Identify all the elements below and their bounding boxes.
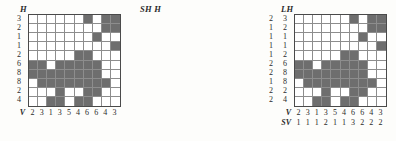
grid-cell-filled[interactable] [29, 70, 38, 79]
grid-cell-filled[interactable] [29, 61, 38, 70]
grid-cell-empty[interactable] [29, 15, 38, 24]
grid-cell-filled[interactable] [75, 79, 84, 88]
grid-cell-filled[interactable] [102, 79, 111, 88]
grid-cell-empty[interactable] [38, 97, 47, 106]
grid-cell-empty[interactable] [29, 97, 38, 106]
grid-cell-empty[interactable] [38, 15, 47, 24]
grid-cell-empty[interactable] [56, 33, 65, 42]
grid-cell-empty[interactable] [47, 88, 56, 97]
grid-cell-empty[interactable] [93, 42, 102, 51]
grid-cell-empty[interactable] [102, 70, 111, 79]
grid-cell-filled[interactable] [38, 70, 47, 79]
grid-cell-filled[interactable] [93, 33, 102, 42]
grid-cell-empty[interactable] [93, 97, 102, 106]
grid-cell-empty[interactable] [111, 33, 120, 42]
grid-cell-filled[interactable] [93, 79, 102, 88]
grid-cell-empty[interactable] [56, 15, 65, 24]
grid-cell-empty[interactable] [75, 15, 84, 24]
grid-cell-filled[interactable] [38, 79, 47, 88]
grid-cell-empty[interactable] [84, 42, 93, 51]
grid-cell-filled[interactable] [93, 70, 102, 79]
grid-cell-empty[interactable] [29, 42, 38, 51]
grid-cell-filled[interactable] [47, 79, 56, 88]
grid-cell-empty[interactable] [75, 24, 84, 33]
grid-cell-empty[interactable] [29, 79, 38, 88]
grid-cell-empty[interactable] [29, 24, 38, 33]
grid-cell-filled[interactable] [75, 61, 84, 70]
grid-cell-filled[interactable] [65, 79, 74, 88]
grid-cell-empty[interactable] [56, 51, 65, 60]
grid-cell-filled[interactable] [84, 88, 93, 97]
grid-cell-filled[interactable] [38, 61, 47, 70]
grid-cell-empty[interactable] [93, 24, 102, 33]
grid-cell-empty[interactable] [38, 88, 47, 97]
grid-cell-empty[interactable] [47, 51, 56, 60]
grid-cell-filled[interactable] [47, 70, 56, 79]
grid-cell-filled[interactable] [111, 42, 120, 51]
grid-cell-empty[interactable] [75, 88, 84, 97]
grid-cell-filled[interactable] [56, 70, 65, 79]
grid-cell-filled[interactable] [56, 61, 65, 70]
grid-cell-filled[interactable] [84, 15, 93, 24]
grid-cell-empty[interactable] [111, 51, 120, 60]
grid-cell-empty[interactable] [111, 97, 120, 106]
grid-cell-empty[interactable] [47, 42, 56, 51]
grid-cell-empty[interactable] [75, 42, 84, 51]
grid-cell-empty[interactable] [38, 42, 47, 51]
grid-cell-empty[interactable] [29, 33, 38, 42]
grid-cell-empty[interactable] [65, 33, 74, 42]
grid-cell-empty[interactable] [29, 88, 38, 97]
grid-cell-empty[interactable] [65, 88, 74, 97]
grid-cell-empty[interactable] [93, 15, 102, 24]
grid-cell-empty[interactable] [56, 24, 65, 33]
grid-cell-filled[interactable] [56, 88, 65, 97]
grid-cell-empty[interactable] [102, 61, 111, 70]
grid-cell-empty[interactable] [111, 70, 120, 79]
grid-cell-empty[interactable] [38, 33, 47, 42]
grid-cell-empty[interactable] [65, 42, 74, 51]
grid-cell-empty[interactable] [84, 24, 93, 33]
grid-cell-filled[interactable] [102, 24, 111, 33]
grid-cell-filled[interactable] [65, 61, 74, 70]
grid-cell-empty[interactable] [47, 15, 56, 24]
grid-cell-filled[interactable] [111, 24, 120, 33]
grid-cell-filled[interactable] [56, 97, 65, 106]
grid-cell-empty[interactable] [47, 61, 56, 70]
grid-cell-empty[interactable] [65, 15, 74, 24]
grid-cell-empty[interactable] [65, 51, 74, 60]
grid-cell-filled[interactable] [84, 70, 93, 79]
grid-cell-filled[interactable] [93, 61, 102, 70]
grid-cell-filled[interactable] [111, 15, 120, 24]
grid-cell-empty[interactable] [47, 33, 56, 42]
grid-cell-filled[interactable] [84, 51, 93, 60]
grid-cell-empty[interactable] [111, 79, 120, 88]
grid-cell-empty[interactable] [102, 88, 111, 97]
grid-cell-filled[interactable] [102, 15, 111, 24]
grid-cell-filled[interactable] [75, 51, 84, 60]
grid-cell-filled[interactable] [75, 97, 84, 106]
grid-cell-filled[interactable] [84, 79, 93, 88]
grid-cell-empty[interactable] [56, 42, 65, 51]
grid-cell-empty[interactable] [111, 88, 120, 97]
grid-cell-filled[interactable] [56, 79, 65, 88]
grid-cell-empty[interactable] [102, 97, 111, 106]
grid-cell-filled[interactable] [75, 70, 84, 79]
grid-cell-empty[interactable] [65, 97, 74, 106]
grid-cell-filled[interactable] [65, 70, 74, 79]
grid-cell-filled[interactable] [84, 97, 93, 106]
grid-cell-empty[interactable] [102, 51, 111, 60]
grid-cell-empty[interactable] [93, 51, 102, 60]
grid-cell-filled[interactable] [93, 88, 102, 97]
grid-cell-empty[interactable] [84, 33, 93, 42]
grid-cell-empty[interactable] [47, 24, 56, 33]
grid-cell-empty[interactable] [111, 61, 120, 70]
grid-cell-empty[interactable] [75, 33, 84, 42]
grid-cell-empty[interactable] [102, 42, 111, 51]
grid-cell-empty[interactable] [29, 51, 38, 60]
grid-cell-filled[interactable] [47, 97, 56, 106]
grid-cell-empty[interactable] [102, 33, 111, 42]
grid-cell-filled[interactable] [84, 61, 93, 70]
grid-cell-empty[interactable] [38, 51, 47, 60]
grid-cell-empty[interactable] [65, 24, 74, 33]
grid-cell-empty[interactable] [38, 24, 47, 33]
